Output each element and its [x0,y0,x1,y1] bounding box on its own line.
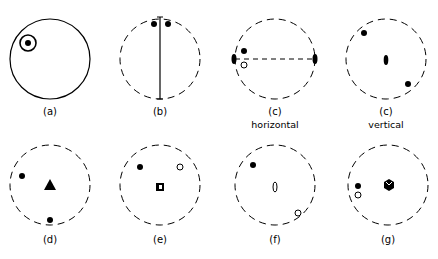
panel-c-vertical: (c) vertical [346,19,426,130]
open-circle-icon [241,62,247,68]
panel-label: (f) [269,234,280,245]
stereographic-circle [10,19,90,99]
filled-dot-icon [405,81,411,87]
panel-d: (d) [10,145,90,245]
panel-b: (b) [120,17,200,117]
panel-c-horizontal: (c) horizontal [232,19,318,130]
panel-a: (a) [10,19,90,117]
panel-label: (c) [379,106,392,117]
panel-g: (g) [348,145,428,245]
symmetry-figure: (a) (b) (c) horizontal (c) vertical [0,0,438,259]
filled-dot-icon [355,183,361,189]
panel-sublabel: horizontal [251,119,298,130]
open-lens-icon [273,182,277,192]
filled-dot-icon [241,48,247,54]
filled-dot-icon [47,217,53,223]
panel-label: (c) [268,106,281,117]
panel-label: (a) [43,106,57,117]
filled-dot-icon [19,173,25,179]
panel-label: (g) [381,234,395,245]
lens-icon [313,54,318,64]
filled-dot-icon [25,40,31,46]
filled-dot-icon [137,164,143,170]
panel-f: (f) [235,145,315,245]
panel-sublabel: vertical [368,119,403,130]
panel-label: (e) [153,234,167,245]
open-circle-icon [295,210,301,216]
open-circle-icon [177,164,183,170]
open-circle-icon [355,192,361,198]
stereographic-circle [235,145,315,225]
twofold-axis-icon [384,55,389,65]
filled-dot-icon [361,30,367,36]
lens-icon [232,54,237,64]
panel-e: (e) [120,145,200,245]
filled-dot-icon [250,162,256,168]
panel-label: (b) [153,106,167,117]
triangle-icon [44,179,56,190]
filled-dot-icon [165,21,171,27]
filled-dot-icon [151,21,157,27]
panel-label: (d) [43,234,57,245]
